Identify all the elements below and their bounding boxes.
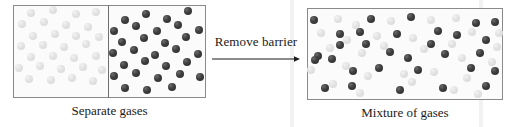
- gas-particle-dark: [404, 54, 412, 62]
- gas-particle-dark: [195, 26, 203, 34]
- gas-particle-dark: [467, 64, 475, 72]
- gas-particle-dark: [196, 73, 204, 81]
- gas-particle-dark: [427, 40, 435, 48]
- gas-particle-light: [326, 44, 334, 52]
- gas-particle-dark: [439, 84, 447, 92]
- gas-particle-dark: [120, 61, 128, 69]
- gas-particle-light: [334, 15, 342, 23]
- gas-particle-dark: [143, 86, 151, 94]
- gas-particle-dark: [154, 74, 162, 82]
- gas-particle-dark: [349, 67, 357, 75]
- gas-particle-dark: [140, 34, 148, 42]
- gas-particle-light: [49, 52, 57, 60]
- gas-particle-light: [15, 64, 23, 72]
- gas-particle-dark: [311, 56, 319, 64]
- gas-particle-dark: [109, 49, 117, 57]
- gas-particle-light: [343, 36, 351, 44]
- gas-particle-dark: [441, 50, 449, 58]
- gas-particle-light: [17, 42, 25, 50]
- gas-particle-light: [25, 75, 33, 83]
- gas-particle-light: [39, 41, 47, 49]
- gas-particle-light: [495, 29, 503, 37]
- gas-particle-dark: [472, 19, 480, 27]
- gas-particle-dark: [110, 27, 118, 35]
- gas-particle-dark: [310, 16, 318, 24]
- gas-particle-light: [79, 63, 87, 71]
- gas-particle-light: [92, 8, 100, 16]
- gas-particle-light: [448, 40, 456, 48]
- gas-particle-dark: [132, 22, 140, 30]
- gas-particle-light: [95, 33, 103, 41]
- gas-particle-dark: [163, 15, 171, 23]
- gas-particle-light: [27, 53, 35, 61]
- caption-separate-gases: Separate gases: [13, 103, 206, 119]
- gas-particle-dark: [476, 49, 484, 57]
- gas-diffusion-figure: Separate gases Remove barrier Mixture of…: [0, 0, 510, 127]
- scan-artifact-left: [290, 0, 294, 127]
- gas-particle-dark: [434, 27, 442, 35]
- gas-particle-light: [450, 86, 458, 94]
- gas-particle-dark: [321, 84, 329, 92]
- gas-particle-light: [68, 74, 76, 82]
- gas-particle-dark: [482, 36, 490, 44]
- gas-particle-dark: [362, 40, 370, 48]
- gas-particle-dark: [162, 62, 170, 70]
- gas-particle-dark: [414, 66, 422, 74]
- gas-particle-dark: [453, 31, 461, 39]
- gas-particle-light: [427, 16, 435, 24]
- gas-particle-light: [47, 76, 55, 84]
- gas-particle-light: [463, 74, 471, 82]
- gas-particle-dark: [393, 30, 401, 38]
- gas-particle-light: [452, 14, 460, 22]
- gas-particle-dark: [161, 39, 169, 47]
- gas-particle-light: [373, 32, 381, 40]
- gas-particle-dark: [367, 15, 375, 23]
- gas-particle-dark: [121, 16, 129, 24]
- gas-particle-light: [51, 30, 59, 38]
- gas-particle-light: [408, 78, 416, 86]
- gas-particle-dark: [174, 21, 182, 29]
- gas-particle-dark: [396, 86, 404, 94]
- gas-particle-light: [72, 10, 80, 18]
- caption-mixture-of-gases: Mixture of gases: [307, 105, 503, 121]
- gas-particle-light: [400, 70, 408, 78]
- gas-particle-light: [82, 40, 90, 48]
- gas-particle-dark: [172, 45, 180, 53]
- gas-particle-light: [358, 49, 366, 57]
- gas-particle-dark: [168, 83, 176, 91]
- gas-particle-light: [409, 34, 417, 42]
- gas-particle-dark: [375, 64, 383, 72]
- gas-particle-light: [98, 66, 106, 74]
- gas-particle-light: [57, 65, 65, 73]
- gas-particle-light: [89, 77, 97, 85]
- gas-particle-light: [60, 43, 68, 51]
- gas-particle-light: [27, 9, 35, 17]
- gas-particle-dark: [132, 69, 140, 77]
- gas-particle-light: [49, 6, 57, 14]
- gas-particle-dark: [141, 57, 149, 65]
- gas-particle-dark: [153, 27, 161, 35]
- gas-particle-light: [307, 66, 315, 74]
- gas-particle-light: [70, 54, 78, 62]
- gas-particle-light: [430, 68, 438, 76]
- gas-particle-light: [488, 58, 496, 66]
- gas-particle-dark: [182, 33, 190, 41]
- gas-particle-dark: [491, 18, 499, 26]
- gas-particle-dark: [118, 38, 126, 46]
- gas-particle-light: [356, 89, 364, 97]
- gas-particle-light: [329, 80, 337, 88]
- gas-particle-light: [387, 17, 395, 25]
- gas-particle-dark: [386, 48, 394, 56]
- gas-particle-light: [40, 18, 48, 26]
- gas-particle-light: [62, 21, 70, 29]
- gas-particle-light: [29, 32, 37, 40]
- gas-particle-dark: [491, 67, 499, 75]
- gas-particle-light: [317, 29, 325, 37]
- gas-particle-dark: [110, 72, 118, 80]
- gas-particle-dark: [348, 82, 356, 90]
- gas-particle-dark: [184, 7, 192, 15]
- gas-particle-light: [493, 43, 501, 51]
- transition-arrow-group: Remove barrier: [210, 34, 302, 62]
- gas-particle-dark: [336, 30, 344, 38]
- remove-barrier-label: Remove barrier: [210, 34, 302, 50]
